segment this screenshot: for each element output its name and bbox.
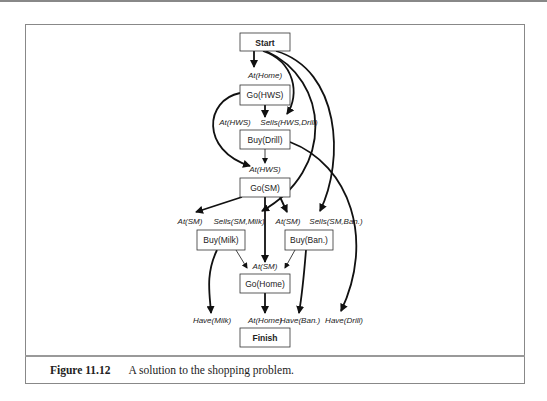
figure-caption: Figure 11.12A solution to the shopping p… <box>50 364 294 376</box>
cond-at-hws: At(HWS) <box>218 118 251 127</box>
link-buyban-order <box>285 250 295 268</box>
node-go-sm: Go(SM) <box>240 178 290 197</box>
cond-at-sm-left: At(SM) <box>177 217 203 226</box>
partial-order-plan-diagram: Start Go(HWS) Buy(Drill) Go(SM) Buy(Milk… <box>0 0 547 401</box>
cond-at-hws-2: At(HWS) <box>248 165 281 174</box>
cond-have-drill: Have(Drill) <box>325 316 363 325</box>
svg-text:Finish: Finish <box>252 333 277 343</box>
node-go-hws: Go(HWS) <box>240 85 290 105</box>
link-buydrill-have-drill <box>290 142 356 311</box>
node-buy-milk: Buy(Milk) <box>197 230 245 250</box>
node-buy-ban: Buy(Ban.) <box>285 230 333 250</box>
node-buy-drill: Buy(Drill) <box>240 130 290 149</box>
cond-at-home: At(Home) <box>247 71 283 80</box>
svg-text:Buy(Ban.): Buy(Ban.) <box>290 235 328 245</box>
svg-text:Go(HWS): Go(HWS) <box>247 90 284 100</box>
svg-text:Buy(Milk): Buy(Milk) <box>203 235 239 245</box>
cond-have-milk: Have(Milk) <box>193 316 232 325</box>
node-go-home: Go(Home) <box>240 274 290 293</box>
figure-number: Figure 11.12 <box>50 364 110 376</box>
node-finish: Finish <box>240 328 290 347</box>
link-gosm-at-sm-left <box>196 197 242 212</box>
cond-sells-hws-drill: Sells(HWS,Drill) <box>260 118 318 127</box>
cond-at-sm-center: At(SM) <box>252 262 278 271</box>
link-gosm-at-sm-right <box>280 197 287 212</box>
cond-have-ban: Have(Ban.) <box>280 316 321 325</box>
node-start: Start <box>240 33 290 51</box>
link-buymilk-have-milk <box>209 250 217 313</box>
cond-at-home-2: At(Home) <box>247 316 283 325</box>
link-buyban-have-ban <box>299 250 306 313</box>
link-buymilk-order <box>236 250 247 268</box>
cond-sells-sm-ban: Sells(SM,Ban.) <box>309 217 363 226</box>
svg-text:Go(SM): Go(SM) <box>250 183 280 193</box>
figure-caption-text: A solution to the shopping problem. <box>128 364 293 376</box>
cond-at-sm-right: At(SM) <box>275 217 301 226</box>
svg-text:Start: Start <box>255 38 275 48</box>
svg-text:Go(Home): Go(Home) <box>245 279 285 289</box>
svg-text:Buy(Drill): Buy(Drill) <box>248 135 283 145</box>
cond-sells-sm-milk: Sells(SM,Milk) <box>213 217 264 226</box>
